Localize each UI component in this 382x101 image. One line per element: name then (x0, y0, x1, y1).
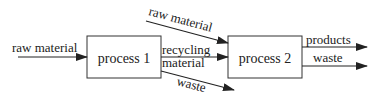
process-2-node: process 2 (228, 36, 302, 78)
waste-p1-arrow: waste (161, 71, 234, 95)
waste-p2-arrow: waste (302, 50, 367, 66)
products-arrow: products (302, 32, 367, 47)
recycling-arrow: recycling material (161, 42, 228, 70)
process-1-node: process 1 (87, 36, 161, 78)
waste-label-2: waste (313, 50, 343, 65)
raw-material-label-1: raw material (12, 40, 78, 55)
waste-label-1: waste (175, 73, 208, 95)
process-flow-diagram: process 1 process 2 raw material raw mat… (0, 0, 382, 101)
process-2-label: process 2 (239, 51, 292, 66)
recycling-label-line2: material (162, 55, 205, 70)
products-label: products (306, 32, 351, 47)
process-1-label: process 1 (98, 51, 151, 66)
raw-material-input-arrow: raw material (12, 40, 87, 57)
